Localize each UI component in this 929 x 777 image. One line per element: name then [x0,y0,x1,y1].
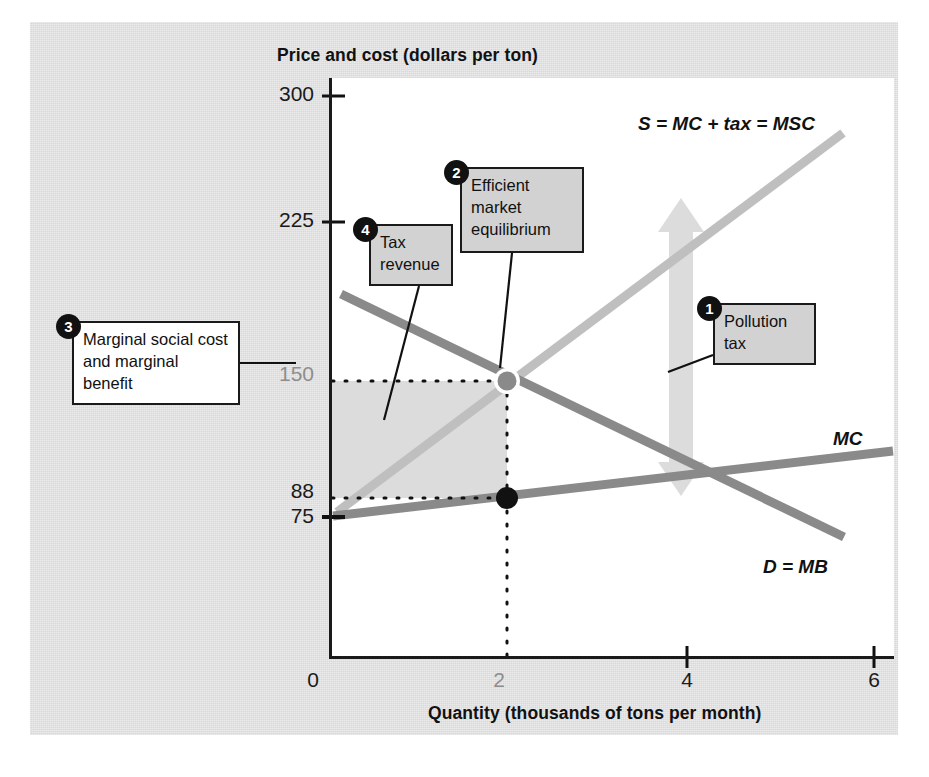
x-tick-label-6: 6 [862,668,886,692]
msc-curve-label: S = MC + tax = MSC [638,113,815,135]
callout-badge-1: 1 [697,296,722,321]
demand-curve-label: D = MB [763,556,828,578]
y-tick-label-225: 225 [258,208,314,232]
y-tick-label-88: 88 [258,479,314,503]
y-tick-label-150: 150 [258,362,314,386]
x-axis-line [329,656,894,659]
callout-efficient-market-equilibrium: Efficient market equilibrium [460,167,584,253]
x-tick-label-4: 4 [675,668,699,692]
callout-tax-revenue: Tax revenue [369,224,453,286]
callout-badge-3: 3 [56,314,81,339]
y-axis-title: Price and cost (dollars per ton) [277,45,538,66]
x-tick-label-0: 0 [301,668,325,692]
callout-2-leader [500,253,512,368]
mc-curve-label: MC [833,428,863,450]
economics-figure: Price and cost (dollars per ton) Quantit… [0,0,929,777]
y-axis-line [329,78,332,659]
y-tick-label-75: 75 [258,504,314,528]
callout-marginal-social-cost-and-marginal-benefit: Marginal social cost and marginal benefi… [72,321,240,405]
marginal-cost-marker [496,487,518,509]
callout-badge-4: 4 [353,217,378,242]
efficient-equilibrium-dot [498,372,517,391]
tax-revenue-rectangle [332,381,507,498]
callout-pollution-tax: Pollution tax [713,303,816,365]
y-tick-label-300: 300 [258,82,314,106]
x-tick-label-2: 2 [487,668,511,692]
callout-badge-2: 2 [444,160,469,185]
x-axis-title: Quantity (thousands of tons per month) [428,703,761,724]
